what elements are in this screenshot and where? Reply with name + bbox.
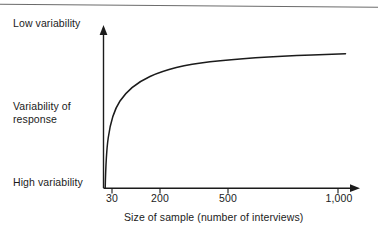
y-axis-arrowhead — [100, 25, 108, 35]
y-axis-bottom-label: High variability — [13, 176, 83, 189]
variability-curve — [105, 54, 345, 188]
chart-figure: Low variability Variability of response … — [0, 0, 378, 234]
x-tick-label-1000: 1,000 — [326, 192, 353, 204]
y-axis-title: Variability of response — [13, 100, 71, 125]
y-axis-top-label: Low variability — [13, 17, 80, 30]
x-tick-label-200: 200 — [151, 192, 169, 204]
x-tick-label-30: 30 — [106, 192, 118, 204]
x-tick-label-500: 500 — [219, 192, 237, 204]
x-axis-title: Size of sample (number of interviews) — [124, 211, 303, 223]
x-axis-arrowhead — [350, 184, 360, 192]
